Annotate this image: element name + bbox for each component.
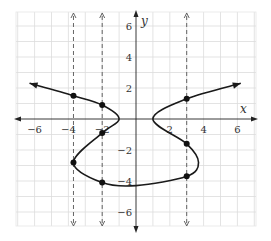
marked-points (70, 93, 189, 186)
axes (14, 10, 258, 233)
x-tick-label: 4 (200, 124, 206, 135)
data-point (70, 93, 76, 99)
y-tick-label: 6 (126, 21, 132, 32)
chart: −6−4−2246642−2−4−6 x y (0, 0, 271, 241)
data-point (99, 102, 105, 108)
y-tick-label: −2 (117, 145, 132, 156)
y-axis-label: y (140, 14, 148, 28)
y-axis-arrow-up-icon (134, 10, 139, 17)
x-tick-label: −4 (61, 124, 76, 135)
y-axis-arrow-down-icon (134, 226, 139, 233)
data-point (70, 159, 76, 165)
data-point (184, 96, 190, 102)
data-point (184, 141, 190, 147)
y-tick-label: 2 (126, 83, 132, 94)
data-point (99, 180, 105, 186)
vertical-dashed-lines (71, 13, 189, 226)
y-tick-label: −6 (117, 207, 132, 218)
data-point (184, 173, 190, 179)
x-tick-label: 6 (234, 124, 240, 135)
data-point (99, 130, 105, 136)
tick-labels: −6−4−2246642−2−4−6 (27, 21, 240, 218)
x-tick-label: −6 (27, 124, 42, 135)
y-tick-label: 4 (126, 52, 132, 63)
x-axis-label: x (240, 102, 247, 116)
